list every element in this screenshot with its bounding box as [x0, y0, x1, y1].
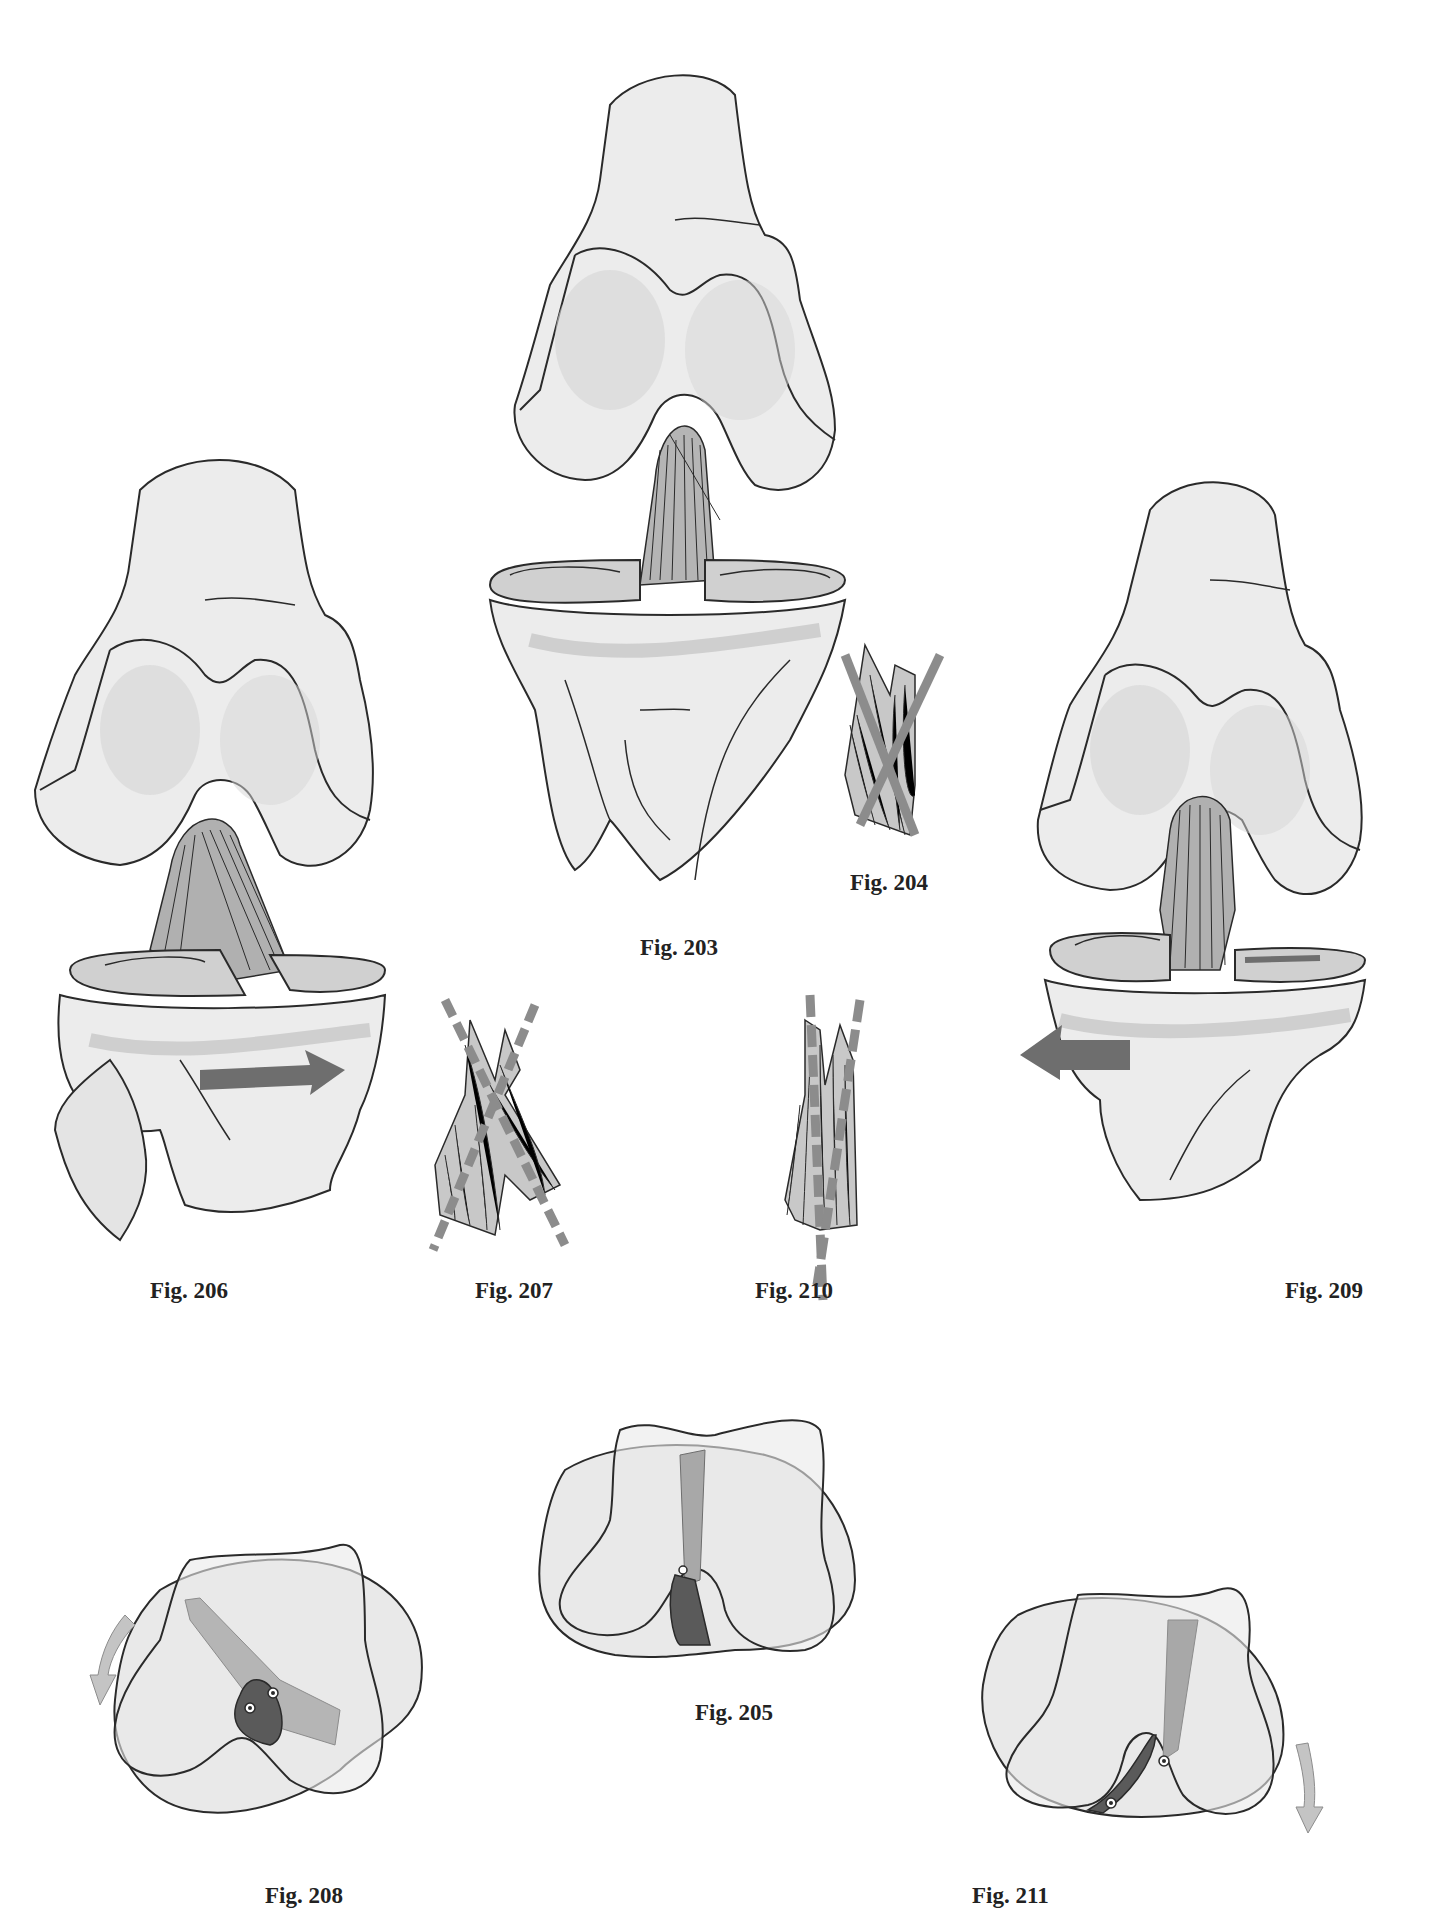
figure-205-superior-view-neutral — [535, 1410, 855, 1670]
figure-208-superior-view-medial-rotation — [90, 1530, 430, 1830]
figure-209-knee-lateral-rotation — [1020, 480, 1390, 1290]
figure-208-caption: Fig. 208 — [265, 1883, 343, 1909]
cruciate-ligament-parallel-detail — [765, 985, 885, 1305]
tibial-plateau-superior-view — [978, 1575, 1318, 1835]
figure-206-knee-medial-rotation — [30, 450, 390, 1250]
figure-204-cruciate-detail — [835, 635, 955, 845]
figure-206-caption: Fig. 206 — [150, 1278, 228, 1304]
figure-205-caption: Fig. 205 — [695, 1700, 773, 1726]
tibial-plateau-superior-view — [90, 1530, 430, 1830]
figure-210-cruciates-parallel — [765, 985, 885, 1305]
cruciate-ligament-detail — [835, 635, 955, 845]
figure-210-caption: Fig. 210 — [755, 1278, 833, 1304]
knee-joint-illustration — [490, 60, 870, 900]
figure-209-caption: Fig. 209 — [1285, 1278, 1363, 1304]
figure-203-knee-neutral — [490, 60, 870, 900]
figure-204-caption: Fig. 204 — [850, 870, 928, 896]
figure-203-caption: Fig. 203 — [640, 935, 718, 961]
figure-207-caption: Fig. 207 — [475, 1278, 553, 1304]
figure-211-superior-view-lateral-rotation — [978, 1575, 1318, 1835]
knee-joint-illustration — [1020, 480, 1390, 1290]
figure-207-cruciates-crossed — [425, 985, 585, 1255]
figure-211-caption: Fig. 211 — [972, 1883, 1049, 1909]
tibial-plateau-superior-view — [535, 1410, 855, 1670]
rotation-arrow-clockwise-icon — [1296, 1743, 1323, 1833]
knee-joint-illustration — [30, 450, 390, 1250]
cruciate-ligament-crossed-detail — [425, 985, 585, 1255]
